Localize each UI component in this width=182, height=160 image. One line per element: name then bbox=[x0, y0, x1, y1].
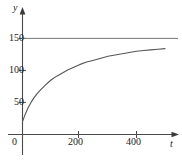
chart-figure: 150 100 50 0 200 400 y t bbox=[0, 0, 182, 160]
x-tick-label-200: 200 bbox=[68, 137, 83, 147]
y-axis-label: y bbox=[13, 3, 17, 13]
x-tick-label-0: 0 bbox=[12, 137, 17, 147]
y-tick-label-50: 50 bbox=[14, 97, 24, 107]
y-tick-label-150: 150 bbox=[9, 33, 24, 43]
y-axis-arrowhead bbox=[20, 7, 26, 15]
x-axis-arrowhead bbox=[172, 132, 180, 138]
plot-area bbox=[0, 0, 182, 160]
y-tick-label-100: 100 bbox=[9, 65, 24, 75]
x-tick-label-400: 400 bbox=[126, 137, 141, 147]
x-axis-label: t bbox=[170, 139, 173, 149]
growth-curve bbox=[23, 49, 166, 122]
